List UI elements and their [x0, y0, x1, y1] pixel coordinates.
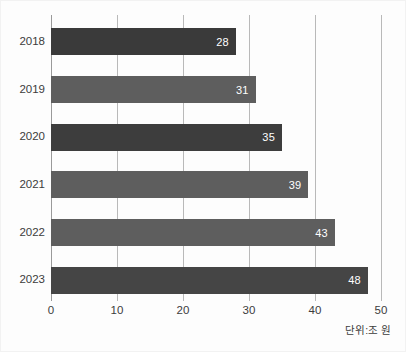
bar-2021: 39	[51, 171, 308, 198]
bar-2022: 43	[51, 219, 335, 246]
bar-2023: 48	[51, 267, 368, 294]
gridline-10	[117, 15, 118, 301]
x-tick-50: 50	[366, 305, 396, 317]
bar-row: 43	[51, 219, 335, 246]
bar-2018: 28	[51, 28, 236, 55]
bar-value-label: 43	[315, 227, 328, 238]
category-label-2020: 2020	[1, 131, 45, 143]
bar-value-label: 35	[262, 132, 275, 143]
bar-value-label: 48	[348, 275, 361, 286]
plot-area: 283135394348	[51, 15, 381, 301]
bar-2019: 31	[51, 76, 256, 103]
category-label-2022: 2022	[1, 227, 45, 239]
bar-chart: 283135394348 201820192020202120222023 01…	[0, 0, 406, 352]
bar-value-label: 28	[216, 36, 229, 47]
category-label-2019: 2019	[1, 84, 45, 96]
gridline-40	[315, 15, 316, 301]
gridline-50	[381, 15, 382, 301]
x-tick-0: 0	[36, 305, 66, 317]
category-label-2023: 2023	[1, 274, 45, 286]
category-label-2018: 2018	[1, 36, 45, 48]
unit-note: 단위:조 원	[345, 325, 391, 336]
category-label-2021: 2021	[1, 179, 45, 191]
x-tick-30: 30	[234, 305, 264, 317]
bar-row: 39	[51, 171, 308, 198]
x-tick-40: 40	[300, 305, 330, 317]
bar-row: 35	[51, 124, 282, 151]
bar-value-label: 31	[236, 84, 249, 95]
x-tick-20: 20	[168, 305, 198, 317]
bar-value-label: 39	[289, 179, 302, 190]
bar-row: 28	[51, 28, 236, 55]
gridline-30	[249, 15, 250, 301]
x-tick-10: 10	[102, 305, 132, 317]
bar-row: 48	[51, 267, 368, 294]
bar-2020: 35	[51, 124, 282, 151]
bar-row: 31	[51, 76, 256, 103]
gridline-20	[183, 15, 184, 301]
